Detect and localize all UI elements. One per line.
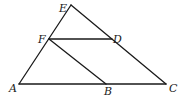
segment-fb bbox=[49, 39, 106, 84]
label-c: C bbox=[169, 82, 178, 95]
label-e: E bbox=[58, 2, 67, 15]
label-d: D bbox=[112, 33, 122, 46]
label-b: B bbox=[103, 85, 112, 97]
label-a: A bbox=[8, 82, 17, 95]
label-f: F bbox=[37, 33, 46, 46]
geometry-diagram: E F D A B C bbox=[0, 0, 181, 97]
